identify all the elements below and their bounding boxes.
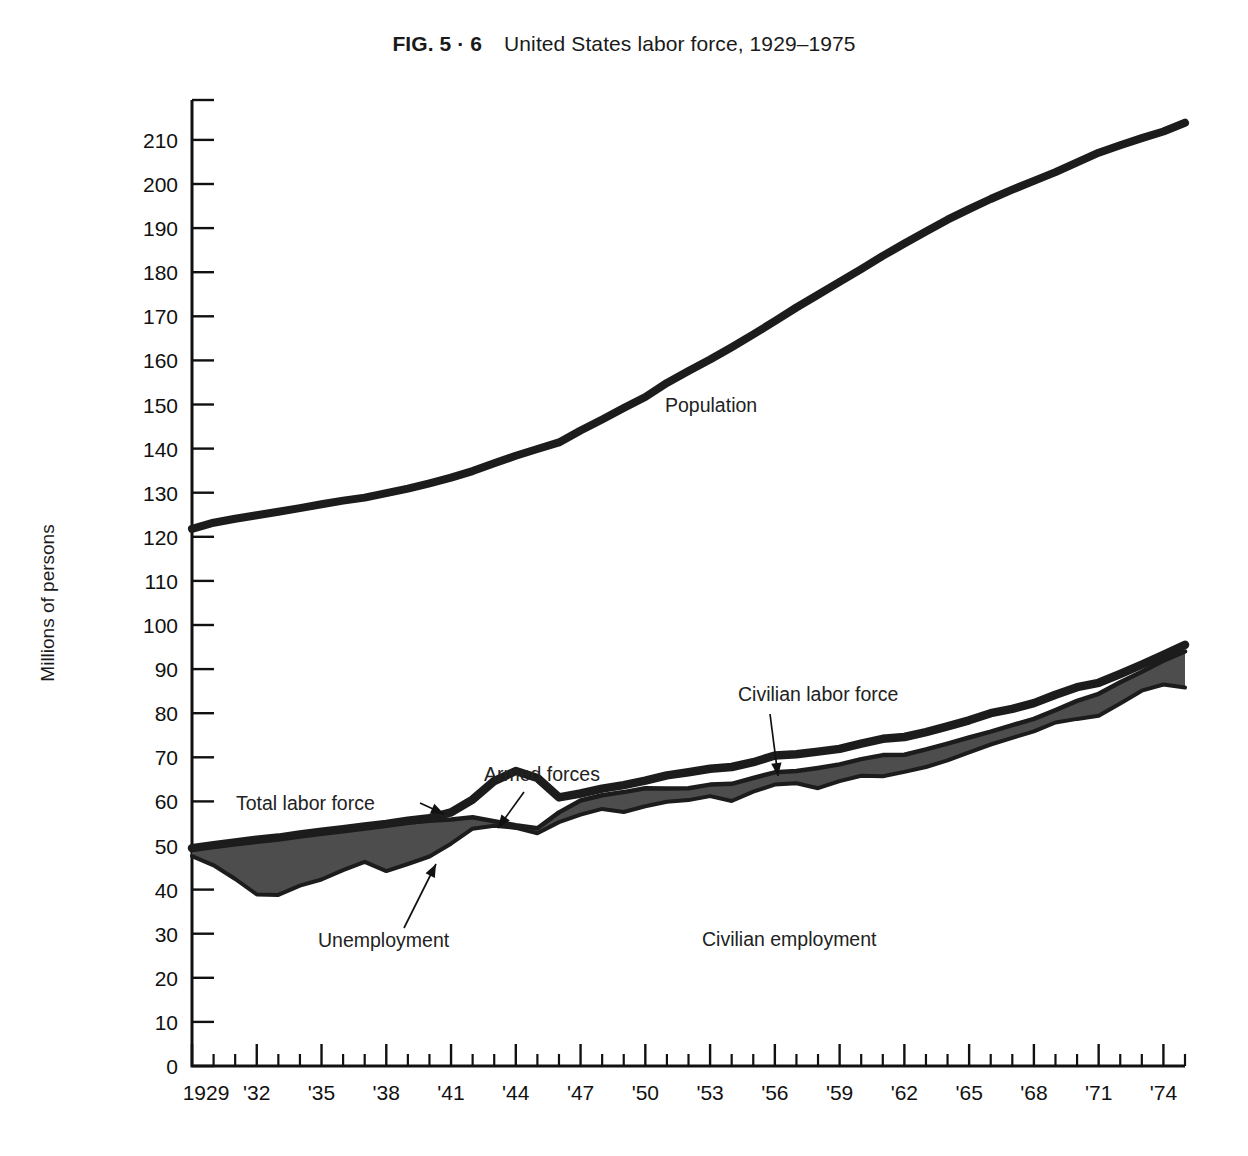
- y-axis-tick-label: 100: [143, 614, 178, 637]
- y-axis-tick-label: 200: [143, 173, 178, 196]
- y-axis-tick-label: 70: [155, 746, 178, 769]
- series-population: [192, 123, 1185, 529]
- x-axis-tick-label: '56: [761, 1081, 788, 1104]
- y-axis-tick-label: 190: [143, 217, 178, 240]
- y-axis-tick-label: 0: [166, 1055, 178, 1078]
- y-axis-tick-label: 30: [155, 923, 178, 946]
- band-armed-forces: [192, 645, 1185, 849]
- x-axis-tick-label: 1929: [183, 1081, 230, 1104]
- figure-container: FIG. 5 · 6United States labor force, 192…: [0, 0, 1248, 1156]
- annotation-civilian-employment: Civilian employment: [702, 928, 877, 950]
- leader-arrowhead-total-labor-force: [430, 804, 444, 814]
- y-axis-tick-label: 50: [155, 835, 178, 858]
- annotation-civilian-labor-force: Civilian labor force: [738, 683, 898, 705]
- y-axis-tick-label: 140: [143, 438, 178, 461]
- x-axis-tick-label: '44: [502, 1081, 530, 1104]
- series-total-labor-force: [192, 645, 1185, 848]
- y-axis-tick-label: 210: [143, 129, 178, 152]
- x-axis-tick-label: '35: [308, 1081, 335, 1104]
- chart-svg: 0102030405060708090100110120130140150160…: [0, 0, 1248, 1156]
- x-axis-tick-label: '65: [955, 1081, 982, 1104]
- x-axis-tick-label: '41: [437, 1081, 464, 1104]
- annotation-total-labor-force: Total labor force: [236, 792, 375, 814]
- y-axis-tick-label: 160: [143, 349, 178, 372]
- y-axis-tick-label: 60: [155, 790, 178, 813]
- x-axis-tick-label: '68: [1020, 1081, 1047, 1104]
- y-axis-tick-label: 10: [155, 1011, 178, 1034]
- axes-group: 0102030405060708090100110120130140150160…: [143, 100, 1185, 1104]
- y-axis-tick-label: 130: [143, 482, 178, 505]
- annotation-armed-forces: Armed forces: [484, 763, 600, 785]
- y-axis-tick-label: 170: [143, 305, 178, 328]
- y-axis-tick-label: 40: [155, 879, 178, 902]
- x-axis-tick-label: '53: [696, 1081, 723, 1104]
- axis-lines: [192, 100, 1185, 1066]
- annotation-population: Population: [665, 394, 757, 416]
- y-axis-tick-label: 20: [155, 967, 178, 990]
- annotation-unemployment: Unemployment: [318, 929, 450, 951]
- series-civilian-labor-force: [192, 652, 1185, 850]
- y-axis-tick-label: 90: [155, 658, 178, 681]
- x-axis-tick-label: '74: [1150, 1081, 1178, 1104]
- y-axis-tick-label: 150: [143, 394, 178, 417]
- x-axis-tick-label: '38: [373, 1081, 400, 1104]
- x-axis-tick-label: '47: [567, 1081, 594, 1104]
- x-axis-tick-label: '59: [826, 1081, 853, 1104]
- x-axis-tick-label: '50: [632, 1081, 659, 1104]
- y-axis-tick-label: 180: [143, 261, 178, 284]
- leader-arrowhead-unemployment: [426, 864, 436, 878]
- x-axis-tick-label: '71: [1085, 1081, 1112, 1104]
- x-axis-tick-label: '62: [891, 1081, 918, 1104]
- y-axis-tick-label: 110: [145, 570, 178, 593]
- y-axis-tick-label: 80: [155, 702, 178, 725]
- y-axis-tick-label: 120: [143, 526, 178, 549]
- x-axis-tick-label: '32: [243, 1081, 270, 1104]
